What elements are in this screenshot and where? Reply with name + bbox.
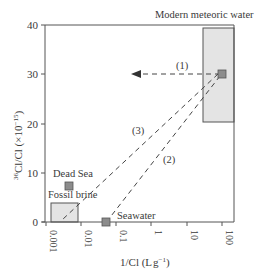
y-axis-ticks bbox=[41, 25, 45, 222]
y-axis-tick-labels: 0 10 20 30 40 bbox=[27, 19, 39, 228]
label-path-1: (1) bbox=[176, 60, 189, 72]
y-tick-20: 20 bbox=[27, 118, 39, 130]
x-tick-0.01: 0.01 bbox=[83, 230, 94, 248]
y-tick-10: 10 bbox=[27, 167, 39, 179]
x-tick-0.1: 0.1 bbox=[118, 230, 129, 243]
y-tick-0: 0 bbox=[33, 216, 39, 228]
label-path-3: (3) bbox=[132, 125, 145, 137]
label-path-2: (2) bbox=[163, 154, 176, 166]
label-fossil-brine: Fossil brine bbox=[48, 189, 98, 200]
fossil-brine-region bbox=[51, 203, 78, 222]
y-axis-label: 36Cl/Cl (×10−15) bbox=[12, 111, 25, 180]
x-tick-1: 1 bbox=[153, 230, 164, 235]
path-2-line bbox=[108, 76, 220, 220]
x-tick-100: 100 bbox=[224, 230, 235, 245]
x-axis-ticks bbox=[46, 222, 222, 226]
x-axis-label: 1/Cl (Lg−1) bbox=[120, 256, 170, 269]
y-tick-30: 30 bbox=[27, 68, 39, 80]
path-1-arrowhead-icon bbox=[131, 70, 141, 78]
label-modern-meteoric-water: Modern meteoric water bbox=[155, 9, 254, 20]
chart-canvas: 0 10 20 30 40 0.001 0.01 0.1 1 10 100 1/… bbox=[0, 0, 263, 277]
label-seawater: Seawater bbox=[117, 210, 156, 221]
x-tick-0.001: 0.001 bbox=[48, 230, 59, 253]
marker-seawater bbox=[102, 218, 110, 226]
x-axis-tick-labels: 0.001 0.01 0.1 1 10 100 bbox=[48, 230, 235, 253]
marker-modern-meteoric-water bbox=[218, 70, 226, 78]
y-tick-40: 40 bbox=[27, 19, 39, 31]
x-tick-10: 10 bbox=[189, 230, 200, 240]
label-dead-sea: Dead Sea bbox=[53, 168, 93, 179]
